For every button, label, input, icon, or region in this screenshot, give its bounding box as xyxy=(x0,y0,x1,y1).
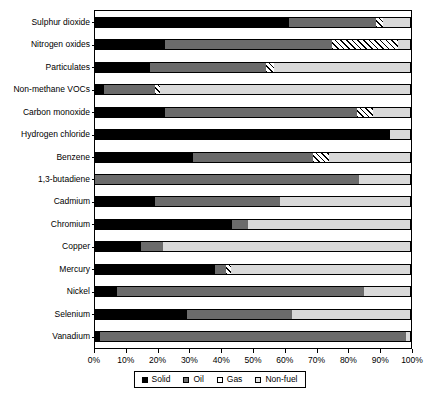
stacked-bar xyxy=(95,152,411,163)
bar-segment-oil xyxy=(141,241,163,252)
y-axis-category-label: Hydrogen chloride xyxy=(0,129,90,140)
bar-segment-oil xyxy=(232,219,248,230)
plot-area: Sulphur dioxideNitrogen oxidesParticulat… xyxy=(94,10,412,349)
legend-item-gas: Gas xyxy=(217,374,243,385)
bar-row: Nickel xyxy=(95,281,411,303)
bar-segment-oil xyxy=(165,39,332,50)
chart-legend: SolidOilGasNon-fuel xyxy=(133,371,305,388)
bar-row: Benzene xyxy=(95,146,411,168)
bar-segment-nonfuel xyxy=(398,39,411,50)
bar-row: 1,3-butadiene xyxy=(95,168,411,190)
bar-row: Hydrogen chloride xyxy=(95,123,411,145)
bar-segment-gas xyxy=(313,152,329,163)
bar-segment-nonfuel xyxy=(390,129,411,140)
bar-segment-solid xyxy=(95,309,187,320)
stacked-bar xyxy=(95,39,411,50)
legend-label: Gas xyxy=(227,374,243,385)
legend-item-solid: Solid xyxy=(141,374,170,385)
bar-row: Copper xyxy=(95,236,411,258)
stacked-bar xyxy=(95,264,411,275)
bar-segment-nonfuel xyxy=(231,264,411,275)
stacked-bar xyxy=(95,107,411,118)
bar-segment-nonfuel xyxy=(163,241,411,252)
bar-segment-nonfuel xyxy=(280,196,411,207)
bar-row: Non-methane VOCs xyxy=(95,78,411,100)
x-axis-tick-label: 80% xyxy=(340,354,357,366)
bar-segment-solid xyxy=(95,62,150,73)
stacked-bar xyxy=(95,196,411,207)
stacked-bar xyxy=(95,62,411,73)
bar-segment-solid xyxy=(95,39,165,50)
x-axis-tick-label: 20% xyxy=(149,354,166,366)
x-axis-tick-label: 0% xyxy=(88,354,100,366)
x-axis-tick xyxy=(285,349,286,353)
stacked-bar xyxy=(95,219,411,230)
x-axis-tick-label: 40% xyxy=(213,354,230,366)
y-axis-category-label: Nitrogen oxides xyxy=(0,39,90,50)
y-axis-category-label: Carbon monoxide xyxy=(0,107,90,118)
x-axis-tick xyxy=(317,349,318,353)
bar-segment-oil xyxy=(165,107,358,118)
stacked-bar xyxy=(95,309,411,320)
bar-segment-oil xyxy=(215,264,226,275)
bar-segment-solid xyxy=(95,196,155,207)
bar-segment-solid xyxy=(95,107,165,118)
bar-segment-nonfuel xyxy=(248,219,411,230)
bar-segment-solid xyxy=(95,152,193,163)
bar-segment-nonfuel xyxy=(160,84,411,95)
bar-segment-nonfuel xyxy=(383,17,411,28)
legend-swatch-oil-icon xyxy=(183,377,189,383)
bar-row: Cadmium xyxy=(95,191,411,213)
x-axis-tick xyxy=(126,349,127,353)
bar-segment-nonfuel xyxy=(364,286,411,297)
stacked-bar xyxy=(95,17,411,28)
x-axis-tick xyxy=(412,349,413,353)
bar-row: Mercury xyxy=(95,258,411,280)
x-axis-tick xyxy=(380,349,381,353)
y-axis-category-label: Non-methane VOCs xyxy=(0,84,90,95)
legend-item-oil: Oil xyxy=(183,374,203,385)
bar-segment-gas xyxy=(357,107,373,118)
y-axis-category-label: 1,3-butadiene xyxy=(0,174,90,185)
x-axis-tick-labels: 0%10%20%30%40%50%60%70%80%90%100% xyxy=(94,354,412,368)
bar-segment-solid xyxy=(95,129,390,140)
bar-segment-solid xyxy=(95,17,289,28)
y-axis-category-label: Sulphur dioxide xyxy=(0,17,90,28)
y-axis-category-label: Vanadium xyxy=(0,331,90,342)
bar-row: Chromium xyxy=(95,213,411,235)
legend-swatch-nonfuel-icon xyxy=(255,377,261,383)
x-axis-tick-label: 90% xyxy=(372,354,389,366)
bar-segment-oil xyxy=(100,331,407,342)
bar-segment-oil xyxy=(104,84,155,95)
bar-segment-nonfuel xyxy=(329,152,411,163)
y-axis-category-label: Cadmium xyxy=(0,196,90,207)
x-axis-tick-label: 60% xyxy=(276,354,293,366)
y-axis-category-label: Chromium xyxy=(0,219,90,230)
bar-row: Selenium xyxy=(95,303,411,325)
stacked-bar xyxy=(95,241,411,252)
bar-segment-nonfuel xyxy=(292,309,411,320)
bar-segment-nonfuel xyxy=(373,107,411,118)
y-axis-category-label: Selenium xyxy=(0,309,90,320)
bar-segment-solid xyxy=(95,241,141,252)
legend-label: Non-fuel xyxy=(265,374,297,385)
x-axis-tick xyxy=(221,349,222,353)
y-axis-category-label: Mercury xyxy=(0,264,90,275)
y-axis-category-label: Nickel xyxy=(0,286,90,297)
stacked-bar xyxy=(95,174,411,185)
bar-segment-solid xyxy=(95,286,117,297)
legend-item-nonfuel: Non-fuel xyxy=(255,374,297,385)
bar-segment-nonfuel xyxy=(406,331,411,342)
bar-row: Carbon monoxide xyxy=(95,101,411,123)
bar-row: Sulphur dioxide xyxy=(95,11,411,33)
bar-segment-gas xyxy=(332,39,398,50)
y-axis-category-label: Copper xyxy=(0,241,90,252)
x-axis-tick-label: 100% xyxy=(401,354,423,366)
bar-segment-oil xyxy=(193,152,313,163)
legend-swatch-gas-icon xyxy=(217,377,223,383)
stacked-bar xyxy=(95,129,411,140)
bar-segment-oil xyxy=(155,196,280,207)
x-axis-tick xyxy=(348,349,349,353)
bar-segment-nonfuel xyxy=(274,62,411,73)
x-axis-tick-label: 50% xyxy=(244,354,261,366)
